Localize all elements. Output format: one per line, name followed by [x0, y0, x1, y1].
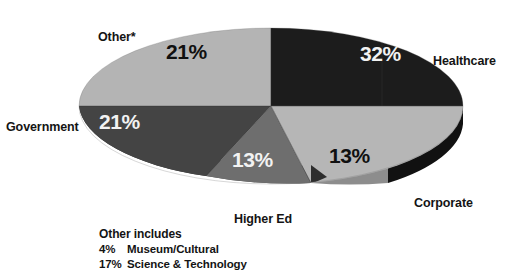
slice-value-other: 21%: [166, 40, 207, 64]
footnote-block: Other includes 4% Museum/Cultural 17% Sc…: [99, 227, 247, 272]
slice-value-government: 21%: [99, 110, 140, 134]
footnote-item-label: Museum/Cultural: [127, 242, 219, 257]
footnote-item-label: Science & Technology: [127, 257, 247, 272]
pie-chart-figure: 32% 13% 13% 21% 21% Other* Healthcare Co…: [0, 0, 528, 277]
slice-label-other: Other*: [98, 30, 136, 44]
pie-chart-graphic: [0, 0, 528, 277]
slice-label-government: Government: [6, 120, 79, 134]
slice-label-corporate: Corporate: [414, 196, 473, 210]
slice-label-higher-ed: Higher Ed: [234, 212, 292, 226]
slice-value-corporate: 13%: [329, 144, 370, 168]
slice-value-healthcare: 32%: [360, 42, 401, 66]
footnote-item-science-technology: 17% Science & Technology: [99, 257, 247, 272]
footnote-item-museum-cultural: 4% Museum/Cultural: [99, 242, 247, 257]
footnote-item-percent: 4%: [99, 242, 127, 257]
footnote-title: Other includes: [99, 227, 247, 242]
footnote-item-percent: 17%: [99, 257, 127, 272]
slice-label-healthcare: Healthcare: [433, 54, 496, 68]
slice-value-higher-ed: 13%: [232, 148, 273, 172]
